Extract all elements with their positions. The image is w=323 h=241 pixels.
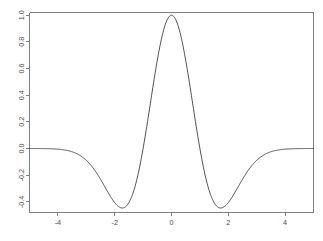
y-tick-label: 0.8 xyxy=(17,37,26,47)
y-tick-label: 0.4 xyxy=(17,90,26,100)
x-tick-label: -2 xyxy=(111,218,117,227)
y-tick-label: -0.2 xyxy=(17,169,26,181)
y-tick-label: -0.4 xyxy=(17,196,26,208)
mexican-hat-wavelet-plot: -0.4-0.20.00.20.40.60.81.0 -4-2024 xyxy=(0,0,323,241)
x-tick-label: 4 xyxy=(283,218,287,227)
x-tick-label: 2 xyxy=(226,218,230,227)
y-tick-label: 0.0 xyxy=(17,144,26,154)
chart-figure: -0.4-0.20.00.20.40.60.81.0 -4-2024 xyxy=(0,0,323,241)
x-tick-label: -4 xyxy=(55,218,61,227)
y-tick-label: 0.6 xyxy=(17,64,26,74)
y-tick-label: 0.2 xyxy=(17,117,26,127)
plot-background xyxy=(0,0,323,241)
x-tick-label: 0 xyxy=(170,218,174,227)
y-tick-label: 1.0 xyxy=(17,10,26,20)
